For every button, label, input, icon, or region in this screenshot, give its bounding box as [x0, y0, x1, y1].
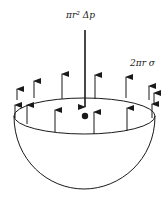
surface-tension-label: 2πr σ: [130, 58, 155, 68]
hemisphere-bowl: [14, 116, 155, 189]
center-dot: [82, 113, 88, 119]
hemisphere-force-diagram: [0, 0, 168, 199]
pressure-force-label: πr² Δp: [66, 10, 95, 20]
